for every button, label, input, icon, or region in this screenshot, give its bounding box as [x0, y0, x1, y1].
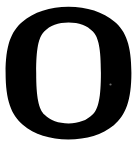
glyph-svg: [0, 0, 137, 147]
scan-speck-artifact: [109, 83, 111, 85]
glyph-canvas: O: [0, 0, 137, 147]
